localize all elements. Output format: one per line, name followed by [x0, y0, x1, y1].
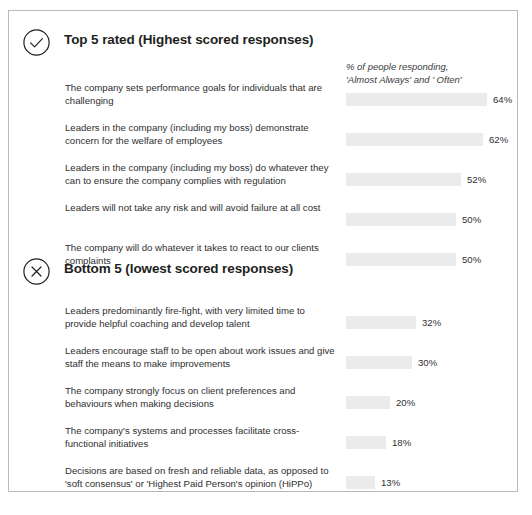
chart-row: Decisions are based on fresh and reliabl…	[9, 464, 517, 508]
bar-value: 50%	[462, 213, 481, 226]
row-label: Decisions are based on fresh and reliabl…	[65, 464, 337, 490]
bar-zone: 13%	[346, 476, 526, 489]
bar	[346, 396, 390, 409]
chart-row: Leaders encourage staff to be open about…	[9, 344, 517, 384]
row-label: Leaders in the company (including my bos…	[65, 121, 335, 147]
section-title: Top 5 rated (Highest scored responses)	[64, 32, 314, 47]
section-header: Bottom 5 (lowest scored responses)	[9, 258, 517, 288]
section-header: Top 5 rated (Highest scored responses)	[9, 29, 517, 59]
report-card: Top 5 rated (Highest scored responses) %…	[8, 10, 518, 492]
legend-line-1: % of people responding,	[346, 61, 521, 74]
row-label: Leaders in the company (including my bos…	[65, 161, 335, 187]
bottom-rows: Leaders predominantly fire-fight, with v…	[9, 304, 517, 508]
bar	[346, 476, 375, 489]
section-bottom-5: Bottom 5 (lowest scored responses) Leade…	[9, 258, 517, 508]
bar-value: 52%	[467, 173, 486, 186]
section-top-5-rated: Top 5 rated (Highest scored responses) %…	[9, 29, 517, 281]
bar-zone: 62%	[346, 133, 526, 146]
bar	[346, 93, 487, 106]
bar	[346, 316, 416, 329]
bar-value: 64%	[493, 93, 512, 106]
bar-zone: 50%	[346, 213, 526, 226]
bar	[346, 213, 456, 226]
row-label: The company's systems and processes faci…	[65, 424, 335, 450]
row-label: Leaders encourage staff to be open about…	[65, 344, 335, 370]
bar-value: 30%	[418, 356, 437, 369]
bar	[346, 356, 412, 369]
chart-row: Leaders predominantly fire-fight, with v…	[9, 304, 517, 344]
bar	[346, 133, 483, 146]
row-label: The company strongly focus on client pre…	[65, 384, 335, 410]
section-title: Bottom 5 (lowest scored responses)	[64, 261, 293, 276]
chart-row: The company strongly focus on client pre…	[9, 384, 517, 424]
row-label: Leaders predominantly fire-fight, with v…	[65, 304, 335, 330]
bar-zone: 18%	[346, 436, 526, 449]
bar-zone: 30%	[346, 356, 526, 369]
bar-value: 62%	[489, 133, 508, 146]
bar-zone: 32%	[346, 316, 526, 329]
bar-value: 32%	[422, 316, 441, 329]
row-label: Leaders will not take any risk and will …	[65, 201, 335, 214]
chart-row: The company sets performance goals for i…	[9, 81, 517, 121]
bar-value: 20%	[396, 396, 415, 409]
bar	[346, 173, 461, 186]
chart-row: The company's systems and processes faci…	[9, 424, 517, 464]
check-circle-icon	[23, 29, 50, 56]
bar	[346, 436, 386, 449]
x-circle-icon	[23, 258, 50, 285]
bar-value: 18%	[392, 436, 411, 449]
bar-zone: 20%	[346, 396, 526, 409]
chart-row: Leaders in the company (including my bos…	[9, 161, 517, 201]
chart-row: Leaders will not take any risk and will …	[9, 201, 517, 241]
bar-value: 13%	[381, 476, 400, 489]
bar-zone: 64%	[346, 93, 526, 106]
top-rows: The company sets performance goals for i…	[9, 81, 517, 281]
row-label: The company sets performance goals for i…	[65, 81, 335, 107]
bar-zone: 52%	[346, 173, 526, 186]
chart-row: Leaders in the company (including my bos…	[9, 121, 517, 161]
